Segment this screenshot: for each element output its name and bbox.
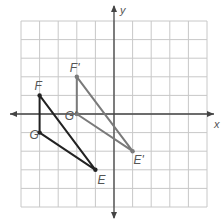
vertex-point: [37, 93, 41, 97]
vertex-label: G': [65, 109, 77, 123]
vertex-labels: FGEF'G'E': [30, 61, 145, 187]
x-axis-left-arrow-icon: [10, 111, 17, 117]
vertex-label: E: [97, 173, 106, 187]
y-axis-down-arrow-icon: [111, 212, 117, 219]
vertex-label: F': [70, 61, 80, 75]
vertex-label: E': [134, 153, 145, 167]
coordinate-plane: xy FGEF'G'E': [0, 0, 223, 222]
vertex-label: G: [30, 128, 39, 142]
y-axis-label: y: [119, 4, 127, 16]
vertex-label: F: [35, 79, 43, 93]
x-axis-label: x: [213, 118, 220, 130]
x-axis-right-arrow-icon: [207, 111, 214, 117]
vertex-point: [75, 75, 79, 79]
y-axis-up-arrow-icon: [111, 5, 117, 12]
vertex-point: [93, 168, 97, 172]
